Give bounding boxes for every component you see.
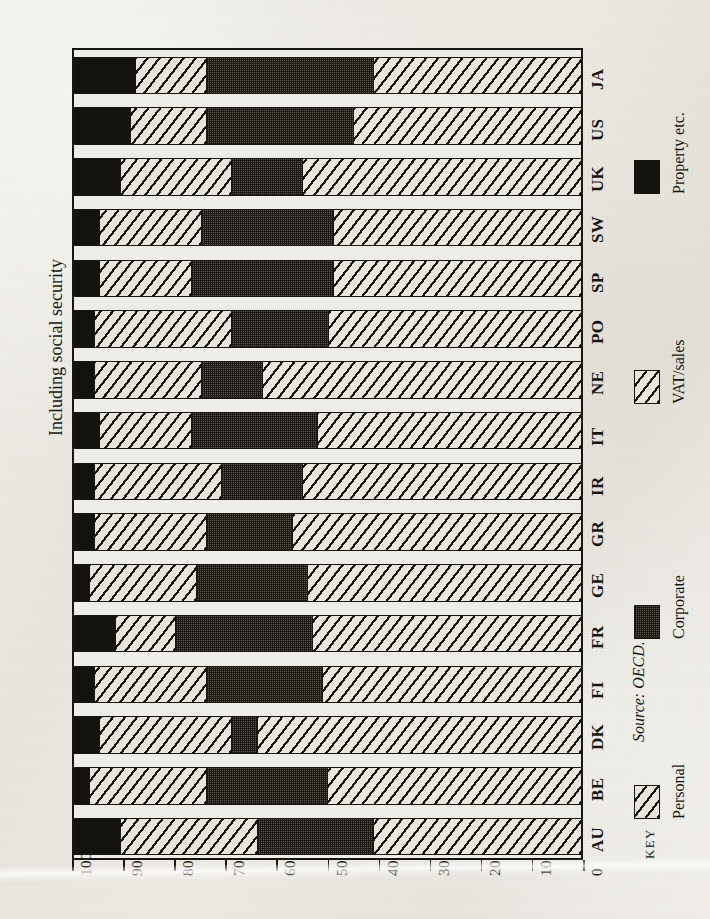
category-label-sp: SP — [588, 273, 608, 293]
segment-personal-au — [120, 819, 257, 855]
axis-tick-70 — [225, 860, 227, 871]
segment-personal-ja — [135, 58, 206, 94]
axis-tick-label-0: 0 — [589, 868, 606, 876]
segment-personal-ne — [94, 362, 200, 398]
segment-corporate-sp — [191, 261, 333, 297]
segment-vat-sales-be — [327, 768, 581, 804]
legend-swatch-vat-sales — [634, 370, 660, 404]
segment-property-ne — [74, 362, 94, 398]
segment-vat-sales-it — [317, 413, 581, 449]
bar-be — [74, 767, 581, 805]
segment-property-fi — [74, 667, 94, 703]
bar-sw — [74, 209, 581, 247]
segment-property-sw — [74, 210, 99, 246]
segment-corporate-ne — [201, 362, 262, 398]
category-label-be: BE — [588, 778, 608, 801]
segment-property-us — [74, 108, 130, 144]
bar-sp — [74, 260, 581, 298]
legend-swatch-corporate — [634, 605, 660, 639]
segment-corporate-dk — [231, 717, 256, 753]
segment-corporate-fi — [206, 667, 323, 703]
segment-corporate-it — [191, 413, 318, 449]
legend-label-vat-sales: VAT/sales — [670, 339, 688, 404]
axis-tick-label-100: 100 — [78, 852, 95, 876]
bar-fr — [74, 615, 581, 653]
category-label-us: US — [588, 119, 608, 141]
segment-personal-us — [130, 108, 206, 144]
segment-vat-sales-ja — [373, 58, 581, 94]
axis-tick-label-60: 60 — [282, 860, 299, 876]
axis-tick-label-40: 40 — [385, 860, 402, 876]
axis-tick-60 — [276, 860, 278, 871]
axis-tick-30 — [430, 860, 432, 871]
category-label-ge: GE — [588, 573, 608, 598]
axis-tick-label-30: 30 — [436, 860, 453, 876]
source-note: Source: OECD. — [630, 641, 648, 742]
segment-personal-ir — [94, 464, 221, 500]
segment-property-dk — [74, 717, 99, 753]
bar-gr — [74, 513, 581, 551]
segment-personal-be — [89, 768, 206, 804]
bar-ne — [74, 361, 581, 399]
segment-vat-sales-gr — [292, 514, 581, 550]
axis-tick-20 — [481, 860, 483, 871]
segment-corporate-sw — [201, 210, 333, 246]
category-label-uk: UK — [588, 166, 608, 192]
segment-personal-ge — [89, 565, 195, 601]
segment-vat-sales-fi — [322, 667, 581, 703]
segment-property-gr — [74, 514, 94, 550]
segment-personal-uk — [120, 159, 232, 195]
segment-vat-sales-sp — [333, 261, 581, 297]
segment-property-uk — [74, 159, 120, 195]
axis-tick-label-50: 50 — [334, 860, 351, 876]
category-label-ir: IR — [588, 477, 608, 497]
category-axis-labels: JAUSUKSWSPPONEITIRGRGEFRFIDKBEAU — [588, 48, 622, 860]
category-label-ja: JA — [588, 69, 608, 90]
axis-tick-label-90: 90 — [129, 860, 146, 876]
segment-personal-gr — [94, 514, 206, 550]
segment-personal-fi — [94, 667, 206, 703]
category-label-fr: FR — [588, 625, 608, 648]
axis-tick-50 — [328, 860, 330, 871]
segment-property-be — [74, 768, 89, 804]
segment-property-po — [74, 311, 94, 347]
segment-vat-sales-fr — [312, 616, 581, 652]
legend-label-property-etc: Property etc. — [670, 112, 688, 194]
segment-corporate-au — [257, 819, 374, 855]
axis-tick-label-80: 80 — [180, 860, 197, 876]
segment-vat-sales-ne — [262, 362, 581, 398]
segment-vat-sales-sw — [333, 210, 581, 246]
value-axis: 1009080706050403020100 — [72, 860, 583, 919]
source-note-text: Source: OECD. — [630, 641, 647, 742]
segment-corporate-gr — [206, 514, 292, 550]
bar-us — [74, 107, 581, 145]
segment-vat-sales-po — [328, 311, 582, 347]
plot-area — [72, 48, 583, 860]
segment-vat-sales-ge — [307, 565, 581, 601]
chart-stage: Including social security 10090807060504… — [0, 0, 710, 919]
segment-personal-sw — [99, 210, 200, 246]
bar-ja — [74, 57, 581, 95]
segment-personal-fr — [115, 616, 176, 652]
legend-swatch-personal — [634, 785, 660, 819]
bar-ge — [74, 564, 581, 602]
segment-vat-sales-ir — [302, 464, 581, 500]
segment-property-it — [74, 413, 99, 449]
segment-property-au — [74, 819, 120, 855]
segment-corporate-us — [206, 108, 353, 144]
legend-swatch-property-etc — [634, 160, 660, 194]
segment-vat-sales-us — [353, 108, 581, 144]
axis-tick-label-70: 70 — [231, 860, 248, 876]
segment-property-fr — [74, 616, 115, 652]
axis-tick-0 — [583, 860, 585, 871]
bar-fi — [74, 666, 581, 704]
segment-property-ge — [74, 565, 89, 601]
segment-corporate-ja — [206, 58, 373, 94]
category-label-sw: SW — [588, 216, 608, 243]
bar-dk — [74, 716, 581, 754]
segment-personal-po — [94, 311, 231, 347]
axis-tick-label-10: 10 — [538, 860, 555, 876]
bar-ir — [74, 463, 581, 501]
segment-personal-it — [99, 413, 190, 449]
axis-tick-100 — [72, 860, 74, 871]
